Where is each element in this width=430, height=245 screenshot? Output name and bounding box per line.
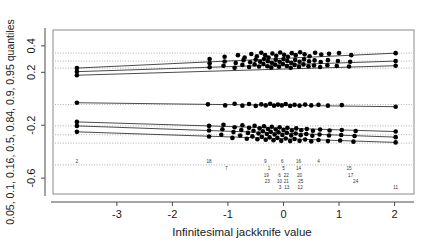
data-point xyxy=(299,128,304,133)
data-point xyxy=(272,103,277,108)
data-point xyxy=(259,50,264,55)
data-point xyxy=(247,102,252,107)
data-point xyxy=(393,129,398,134)
quantile-curve-0.05 xyxy=(77,132,396,143)
point-label: 13 xyxy=(284,185,290,190)
data-point xyxy=(253,104,258,109)
data-point xyxy=(75,120,80,125)
data-point xyxy=(293,53,298,58)
data-point xyxy=(309,103,314,108)
data-point xyxy=(240,123,245,128)
data-point xyxy=(256,131,261,136)
data-point xyxy=(278,50,283,55)
point-label: 20 xyxy=(297,173,303,178)
data-point xyxy=(297,139,302,144)
data-point xyxy=(290,128,295,133)
data-point xyxy=(327,52,332,57)
data-point xyxy=(283,102,288,107)
data-point xyxy=(252,123,257,128)
data-point xyxy=(327,133,332,138)
data-point xyxy=(251,128,256,133)
data-point xyxy=(297,59,302,64)
data-point xyxy=(306,64,311,69)
data-point xyxy=(313,50,318,55)
data-point xyxy=(271,138,276,143)
data-point xyxy=(249,52,254,57)
data-point xyxy=(207,65,212,70)
data-point xyxy=(240,103,245,108)
data-point xyxy=(263,137,268,142)
data-point xyxy=(232,66,237,71)
point-label: 4 xyxy=(317,159,320,164)
data-point xyxy=(303,102,308,107)
x-tick-label: -3 xyxy=(112,208,122,220)
data-point xyxy=(312,58,317,63)
data-point xyxy=(277,125,282,130)
point-label: 9 xyxy=(264,159,267,164)
data-point xyxy=(290,51,295,56)
data-point xyxy=(222,54,227,59)
data-point xyxy=(289,133,294,138)
data-point xyxy=(75,124,80,129)
data-point xyxy=(75,100,80,105)
x-tick-label: 2 xyxy=(391,208,397,220)
reference-lines-group xyxy=(55,53,412,165)
data-point xyxy=(353,129,358,134)
data-point xyxy=(293,131,298,136)
plot-root: 2187911923656221021313161420251241517241… xyxy=(0,0,430,245)
data-point xyxy=(292,63,297,68)
x-tick-label: -2 xyxy=(168,208,178,220)
data-point xyxy=(233,61,238,66)
data-point xyxy=(259,102,264,107)
data-point xyxy=(261,129,266,134)
data-point xyxy=(307,54,312,59)
data-point xyxy=(273,57,278,62)
data-point xyxy=(273,62,278,67)
point-label: 6 xyxy=(281,159,284,164)
data-point xyxy=(310,134,315,139)
data-point xyxy=(288,139,293,144)
point-label: 3 xyxy=(279,185,282,190)
point-label: 2 xyxy=(76,159,79,164)
data-point xyxy=(246,131,251,136)
data-point xyxy=(247,65,252,70)
point-label: 22 xyxy=(284,173,290,178)
data-point xyxy=(252,62,257,67)
point-label: 7 xyxy=(225,166,228,171)
data-point xyxy=(239,128,244,133)
data-point xyxy=(297,103,302,108)
data-point xyxy=(223,103,228,108)
data-point xyxy=(75,130,80,135)
data-point xyxy=(276,130,281,135)
point-label: 21 xyxy=(284,179,290,184)
data-point xyxy=(292,137,297,142)
x-tick-label: 0 xyxy=(280,208,286,220)
data-point xyxy=(288,104,293,109)
data-point xyxy=(283,136,288,141)
data-point xyxy=(298,133,303,138)
data-point xyxy=(206,102,211,107)
data-point xyxy=(316,103,321,108)
data-point xyxy=(305,127,310,132)
data-point xyxy=(279,139,284,144)
data-point xyxy=(393,59,398,64)
data-point xyxy=(285,126,290,131)
data-point xyxy=(318,127,323,132)
data-point xyxy=(348,59,353,64)
point-label: 6 xyxy=(278,173,281,178)
data-point xyxy=(236,53,241,58)
data-point xyxy=(207,124,212,129)
data-point xyxy=(253,57,258,62)
data-point xyxy=(222,59,227,64)
data-point xyxy=(255,137,260,142)
data-point xyxy=(276,102,281,107)
x-tick-label: -1 xyxy=(223,208,233,220)
data-point xyxy=(260,135,265,140)
point-label: 18 xyxy=(207,159,213,164)
data-point xyxy=(319,52,324,57)
data-point xyxy=(326,103,331,108)
data-point xyxy=(304,132,309,137)
data-point xyxy=(325,63,330,68)
data-point xyxy=(347,64,352,69)
data-point xyxy=(393,51,398,56)
